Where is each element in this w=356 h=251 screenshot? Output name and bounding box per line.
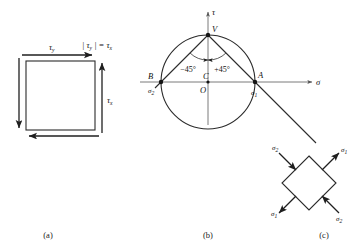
sigma-1-arrow-bottom-left xyxy=(279,196,296,213)
sigma-1-label-bottom-left: σ1 xyxy=(271,210,277,219)
angle-negative-45-label: −45° xyxy=(180,65,196,74)
panel-b-group: σ τ −45° +45° V A B C O σ1 σ2 (b) xyxy=(140,7,321,240)
angle-positive-45-label: +45° xyxy=(214,65,230,74)
tau-y-label: τy xyxy=(49,42,55,53)
tau-axis-label: τ xyxy=(212,7,216,17)
tau-x-label: τx xyxy=(107,95,113,106)
angle-arc-positive xyxy=(208,53,226,60)
shear-relation-label: | τy | = τx xyxy=(82,40,113,51)
caption-b: (b) xyxy=(203,230,213,240)
point-o-label: O xyxy=(200,85,206,95)
sigma-2-label-b: σ2 xyxy=(148,87,154,96)
sigma-1-arrow-top-right xyxy=(322,153,339,170)
sigma-2-label-bottom-right: σ2 xyxy=(336,215,342,224)
sigma-2-arrow-top-left xyxy=(279,153,296,170)
sigma-1-label-b: σ1 xyxy=(251,89,257,98)
caption-c: (c) xyxy=(319,230,329,240)
point-v-marker xyxy=(206,33,210,37)
sigma-2-arrow-bottom-right xyxy=(322,196,339,213)
panel-c-group: σ1 σ1 σ2 σ2 (c) xyxy=(271,144,347,240)
figure-canvas: τy τx | τy | = τx (a) σ τ −45° +45° xyxy=(0,0,356,251)
shear-square xyxy=(26,61,95,130)
point-v-label: V xyxy=(212,24,219,34)
point-a-label: A xyxy=(257,70,264,80)
sigma-1-label-top-right: σ1 xyxy=(341,146,347,155)
sigma-axis-label: σ xyxy=(316,77,321,87)
caption-a: (a) xyxy=(43,230,53,240)
angle-arc-negative xyxy=(190,53,208,60)
point-c-label: C xyxy=(203,71,209,81)
sigma-2-label-top-left: σ2 xyxy=(272,144,278,153)
point-a-marker xyxy=(253,80,257,84)
chord-v-a-extended xyxy=(208,35,316,143)
point-b-label: B xyxy=(148,71,153,81)
point-b-marker xyxy=(159,80,163,84)
panel-a-group: τy τx | τy | = τx (a) xyxy=(19,40,113,240)
